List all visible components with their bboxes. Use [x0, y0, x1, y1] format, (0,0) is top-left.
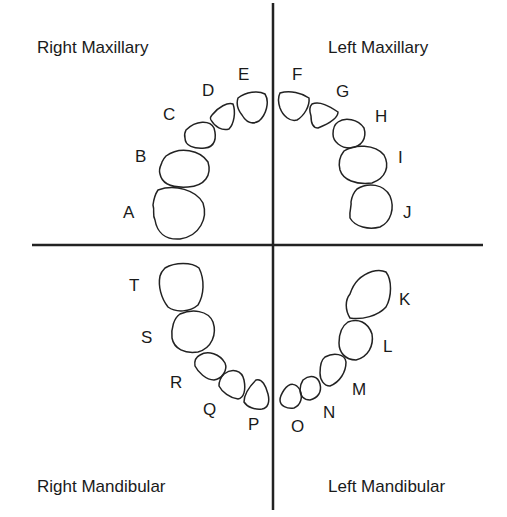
tooth-T[interactable]: [159, 264, 203, 311]
label-A: A: [123, 203, 135, 222]
label-Q: Q: [203, 400, 216, 419]
label-M: M: [352, 380, 366, 399]
label-O: O: [291, 417, 304, 436]
tooth-chart: Right Maxillary Left Maxillary Right Man…: [0, 0, 507, 517]
label-R: R: [170, 373, 182, 392]
tooth-F[interactable]: [279, 92, 310, 121]
label-C: C: [163, 105, 175, 124]
label-J: J: [403, 203, 412, 222]
label-I: I: [398, 148, 403, 167]
tooth-I[interactable]: [339, 146, 386, 183]
tooth-N[interactable]: [300, 377, 321, 400]
label-H: H: [375, 107, 387, 126]
tooth-D[interactable]: [211, 104, 235, 130]
label-D: D: [202, 81, 214, 100]
quadrant-right-mandibular: Right Mandibular: [37, 477, 166, 496]
label-K: K: [399, 290, 411, 309]
quadrant-left-maxillary: Left Maxillary: [328, 38, 429, 57]
tooth-G[interactable]: [310, 103, 338, 128]
label-F: F: [292, 65, 302, 84]
tooth-O[interactable]: [280, 384, 301, 408]
tooth-B[interactable]: [159, 150, 209, 187]
tooth-L[interactable]: [339, 321, 372, 361]
label-P: P: [248, 415, 259, 434]
tooth-H[interactable]: [333, 119, 365, 148]
label-N: N: [323, 403, 335, 422]
label-T: T: [129, 276, 139, 295]
label-E: E: [238, 65, 249, 84]
tooth-K[interactable]: [346, 270, 390, 318]
tooth-C[interactable]: [185, 122, 216, 148]
tooth-M[interactable]: [320, 354, 346, 386]
tooth-R[interactable]: [195, 353, 226, 380]
tooth-E[interactable]: [237, 92, 267, 123]
label-G: G: [336, 82, 349, 101]
label-B: B: [135, 147, 146, 166]
label-L: L: [383, 337, 392, 356]
tooth-J[interactable]: [350, 185, 392, 228]
quadrant-left-mandibular: Left Mandibular: [328, 477, 446, 496]
tooth-S[interactable]: [172, 311, 215, 352]
tooth-P[interactable]: [244, 380, 269, 410]
quadrant-right-maxillary: Right Maxillary: [37, 38, 149, 57]
tooth-A[interactable]: [153, 188, 204, 239]
label-S: S: [141, 328, 152, 347]
